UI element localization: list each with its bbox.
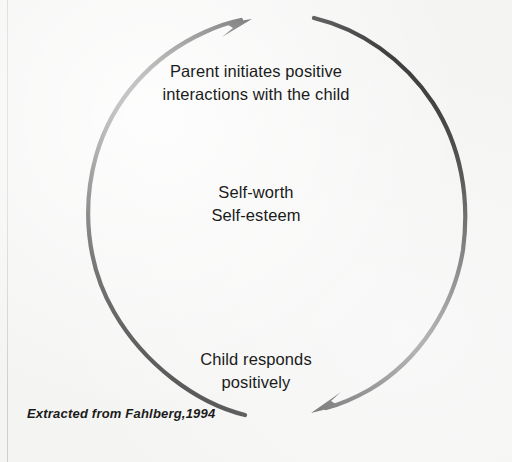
label-parent-initiates-line1: Parent initiates positive	[0, 60, 512, 83]
label-parent-initiates-line2: interactions with the child	[0, 83, 512, 106]
label-self-worth-esteem: Self-worth Self-esteem	[0, 181, 512, 228]
label-self-worth: Self-worth	[0, 181, 512, 204]
label-self-esteem: Self-esteem	[0, 204, 512, 227]
label-parent-initiates: Parent initiates positive interactions w…	[0, 60, 512, 107]
attribution-text: Extracted from Fahlberg,1994	[27, 406, 215, 421]
figure-canvas: Parent initiates positive interactions w…	[0, 0, 512, 462]
label-child-responds-line2: positively	[0, 371, 512, 394]
label-child-responds-line1: Child responds	[0, 348, 512, 371]
label-child-responds: Child responds positively	[0, 348, 512, 395]
